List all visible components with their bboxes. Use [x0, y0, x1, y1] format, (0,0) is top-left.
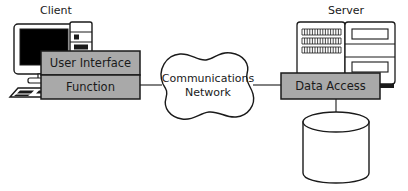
network-label-line2: Network [185, 86, 232, 99]
tower-pc-drive-slot [74, 45, 88, 50]
client-tier-stack: User Interface Function [41, 51, 140, 99]
client-tier-user-interface-label: User Interface [50, 56, 131, 70]
keyboard-key-row-3 [14, 95, 30, 97]
client-server-diagram: Client User Interface Function Communica… [0, 0, 408, 191]
client-label: Client [40, 4, 73, 17]
server-drive-bay-1 [352, 29, 388, 39]
database-top-ellipse [303, 112, 369, 132]
client-tier-function-label: Function [66, 80, 115, 94]
database-cylinder[interactable] [303, 112, 369, 183]
server-drive-bay-2 [352, 62, 388, 72]
diagram-canvas: Client User Interface Function Communica… [0, 0, 408, 191]
server-tier-data-access-label: Data Access [295, 79, 365, 93]
tower-pc-drive-light-1 [74, 35, 79, 40]
network-label-line1: Communications [162, 72, 255, 85]
server-label: Server [328, 4, 365, 17]
